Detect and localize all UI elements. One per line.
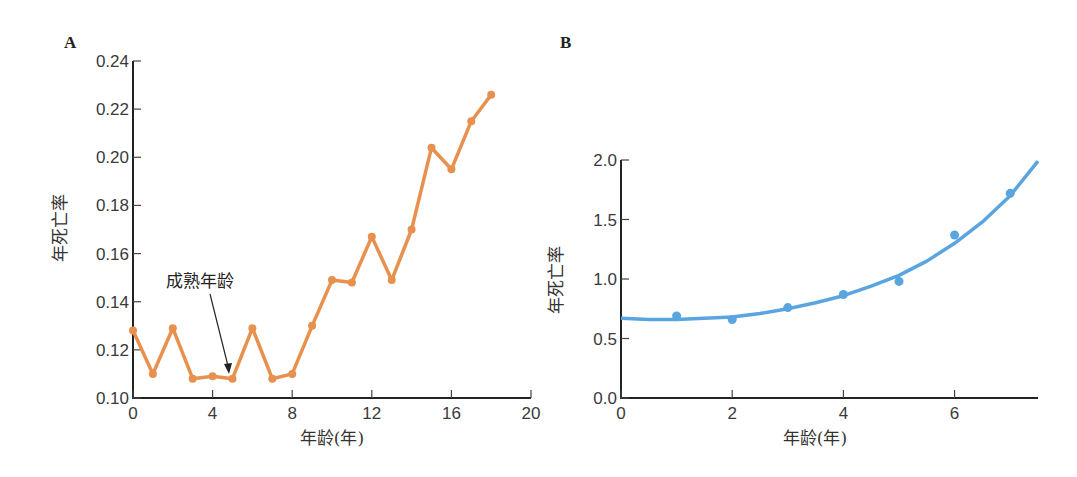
data-point	[672, 311, 681, 320]
y-tick-label: 0.24	[96, 52, 129, 71]
panel-a-line-series	[129, 91, 495, 383]
data-point	[368, 233, 376, 241]
panel-a: A 0.100.120.140.160.180.200.220.24048121…	[50, 33, 540, 448]
data-point	[839, 290, 848, 299]
annotation-arrow-icon	[210, 294, 232, 374]
data-point	[428, 144, 436, 152]
data-point	[950, 230, 959, 239]
data-point	[248, 324, 256, 332]
x-tick-label: 16	[442, 404, 461, 423]
axis-lines	[133, 61, 531, 398]
data-point	[209, 372, 217, 380]
data-point	[229, 375, 237, 383]
data-point	[149, 370, 157, 378]
data-point	[487, 91, 495, 99]
data-point	[1006, 189, 1015, 198]
axis-lines	[621, 160, 1038, 398]
data-point	[408, 226, 416, 234]
y-tick-label: 0.14	[96, 293, 129, 312]
data-point	[288, 370, 296, 378]
data-point	[169, 324, 177, 332]
data-point	[348, 278, 356, 286]
y-tick-label: 2.0	[593, 151, 617, 170]
mortality-line	[133, 95, 491, 379]
panel-a-y-axis-title: 年死亡率	[50, 194, 70, 262]
data-point	[129, 327, 137, 335]
data-point	[388, 276, 396, 284]
panel-a-x-axis-title: 年龄(年)	[300, 428, 364, 448]
x-tick-label: 0	[128, 404, 137, 423]
panel-b-label: B	[560, 33, 571, 52]
y-tick-label: 0.12	[96, 341, 129, 360]
data-point	[467, 117, 475, 125]
x-tick-label: 4	[208, 404, 217, 423]
panel-a-axes: 0.100.120.140.160.180.200.220.2404812162…	[96, 52, 541, 423]
maturity-age-annotation: 成熟年龄	[166, 271, 234, 291]
data-point	[783, 303, 792, 312]
panel-b-y-axis-title: 年死亡率	[546, 246, 566, 314]
x-tick-label: 20	[522, 404, 541, 423]
x-tick-label: 6	[950, 404, 959, 423]
panel-b-axes: 0.00.51.01.52.00246	[593, 151, 1038, 423]
y-tick-label: 0.18	[96, 196, 129, 215]
y-tick-label: 0.10	[96, 389, 129, 408]
data-point	[328, 276, 336, 284]
y-tick-label: 0.20	[96, 148, 129, 167]
y-tick-label: 0.0	[593, 389, 617, 408]
panel-b-scatter-series	[621, 161, 1038, 324]
data-point	[447, 165, 455, 173]
data-point	[895, 277, 904, 286]
data-point	[308, 322, 316, 330]
fit-curve	[621, 161, 1038, 319]
x-tick-label: 4	[839, 404, 848, 423]
y-tick-label: 1.5	[593, 211, 617, 230]
x-tick-label: 2	[727, 404, 736, 423]
panel-b: B 0.00.51.01.52.00246 年死亡率 年龄(年)	[546, 33, 1038, 448]
figure: A 0.100.120.140.160.180.200.220.24048121…	[0, 0, 1077, 477]
x-tick-label: 12	[362, 404, 381, 423]
x-tick-label: 0	[616, 404, 625, 423]
y-tick-label: 1.0	[593, 270, 617, 289]
panel-a-label: A	[64, 33, 77, 52]
y-tick-label: 0.22	[96, 100, 129, 119]
data-point	[268, 375, 276, 383]
panel-b-x-axis-title: 年龄(年)	[783, 428, 847, 448]
x-tick-label: 8	[287, 404, 296, 423]
data-point	[728, 315, 737, 324]
y-tick-label: 0.16	[96, 245, 129, 264]
data-point	[189, 375, 197, 383]
y-tick-label: 0.5	[593, 330, 617, 349]
